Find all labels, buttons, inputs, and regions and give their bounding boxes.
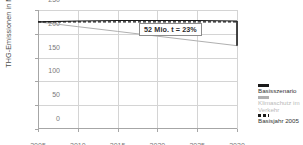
x-tickmark-2015 — [118, 129, 119, 132]
delta-annotation-label: 52 Mio. t = 23% — [139, 23, 202, 36]
legend-label-basisjahr-2005: Basisjahr 2005 — [258, 118, 303, 125]
y-tick-label-250: 250 — [36, 0, 60, 3]
legend-item-basisjahr-2005: Basisjahr 2005 — [258, 114, 303, 125]
x-tick-label-2020: 2020 — [139, 142, 175, 145]
x-tick-label-2005: 2005 — [20, 142, 56, 145]
x-tick-label-2025: 2025 — [179, 142, 215, 145]
y-axis-title: THG-Emissionen in Mio. t/a — [4, 0, 13, 83]
x-tick-label-2030: 2030 — [219, 142, 255, 145]
x-tick-label-2015: 2015 — [100, 142, 136, 145]
x-tick-label-2010: 2010 — [60, 142, 96, 145]
plot-area: 2005 2010 2015 2020 2025 2030 — [38, 10, 237, 129]
x-tickmark-2005 — [38, 129, 39, 132]
chart-legend: Basisszenario Klimaschutz im Verkehr Bas… — [258, 84, 303, 126]
series-line-klimaschutz-im-verkehr — [38, 22, 237, 46]
legend-item-klimaschutz-im-verkehr: Klimaschutz im Verkehr — [258, 96, 303, 114]
x-tickmark-2010 — [78, 129, 79, 132]
x-tickmark-2025 — [197, 129, 198, 132]
legend-label-basisszenario: Basisszenario — [258, 88, 303, 95]
x-tickmark-2020 — [157, 129, 158, 132]
series-line-basisszenario — [38, 20, 237, 21]
x-tickmark-2030 — [237, 129, 238, 132]
chart-figure: THG-Emissionen in Mio. t/a 250 200 150 1… — [0, 0, 303, 145]
legend-item-basisszenario: Basisszenario — [258, 84, 303, 95]
series-lines — [38, 10, 237, 129]
legend-label-klimaschutz-line2: Verkehr — [258, 107, 303, 114]
